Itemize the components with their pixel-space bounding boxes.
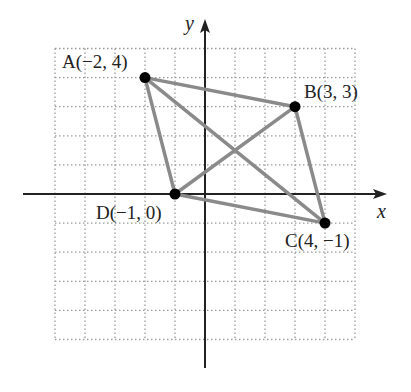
- x-axis-label: x: [376, 200, 386, 222]
- label-point-b: B(3, 3): [304, 81, 358, 103]
- point-b: [290, 101, 301, 112]
- point-c: [320, 218, 331, 229]
- segment-ab: [145, 78, 295, 107]
- label-point-c: C(4, −1): [285, 230, 350, 252]
- label-point-a: A(−2, 4): [62, 51, 128, 73]
- y-axis-label: y: [183, 12, 194, 35]
- point-d: [170, 189, 181, 200]
- label-point-d: D(−1, 0): [96, 202, 162, 224]
- segment-da: [145, 78, 175, 194]
- point-a: [140, 72, 151, 83]
- segment-cd: [175, 194, 325, 223]
- coordinate-plane: x y A(−2, 4) B(3, 3) C(4, −1) D(−1, 0): [0, 0, 411, 392]
